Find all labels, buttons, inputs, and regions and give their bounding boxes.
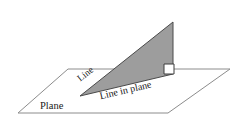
geometry-diagram: Plane Line Line in plane xyxy=(0,0,246,124)
label-line: Line xyxy=(75,65,95,84)
right-angle-marker-icon xyxy=(164,64,174,74)
label-plane: Plane xyxy=(40,100,64,111)
diagram-canvas: Plane Line Line in plane xyxy=(0,0,246,124)
